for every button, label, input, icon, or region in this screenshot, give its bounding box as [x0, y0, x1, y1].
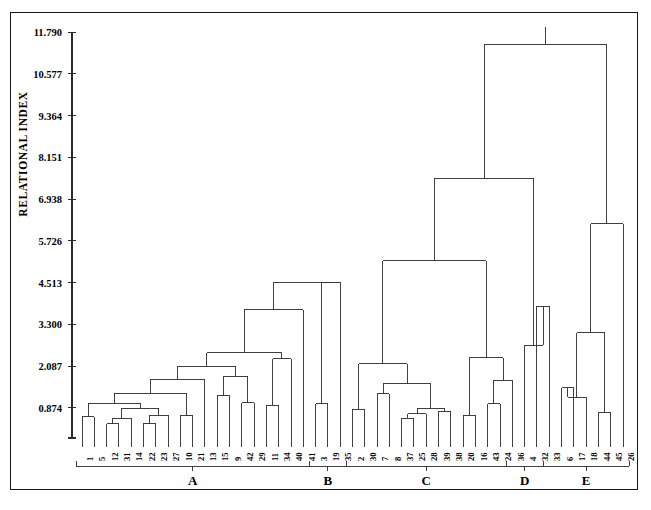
- y-axis-tick-label: 11.790: [0, 27, 62, 38]
- dendrogram-figure: RELATIONAL INDEX 11.79010.5779.3648.1516…: [0, 0, 651, 510]
- leaf-label: 40: [294, 452, 304, 461]
- leaf-label: 10: [184, 452, 194, 461]
- y-axis-tick-label: 0.874: [0, 402, 62, 413]
- leaf-label: 36: [516, 452, 526, 461]
- cluster-letter-b: B: [324, 473, 333, 489]
- y-axis-tick-label: 2.087: [0, 361, 62, 372]
- leaf-label: 6: [565, 457, 575, 461]
- leaf-label: 44: [602, 452, 612, 461]
- leaf-label: 43: [491, 452, 501, 461]
- leaf-label: 33: [552, 452, 562, 461]
- leaf-label: 26: [626, 452, 636, 461]
- leaf-label: 30: [368, 452, 378, 461]
- leaf-label: 31: [122, 452, 132, 461]
- leaf-label: 21: [196, 452, 206, 461]
- y-axis-tick-label: 10.577: [0, 68, 62, 79]
- cluster-letter-e: E: [582, 473, 591, 489]
- leaf-label: 4: [528, 457, 538, 461]
- leaf-label: 35: [343, 452, 353, 461]
- leaf-label: 45: [614, 452, 624, 461]
- leaf-label: 32: [540, 452, 550, 461]
- leaf-label: 27: [171, 452, 181, 461]
- leaf-label: 29: [257, 452, 267, 461]
- plot-area: 11.79010.5779.3648.1516.9385.7264.5133.3…: [0, 0, 651, 510]
- leaf-label: 28: [429, 452, 439, 461]
- y-axis-tick-label: 4.513: [0, 277, 62, 288]
- leaf-label: 3: [319, 457, 329, 461]
- leaf-label: 1: [85, 457, 95, 461]
- cluster-letter-a: A: [188, 473, 197, 489]
- leaf-label: 24: [503, 452, 513, 461]
- y-axis-tick-label: 8.151: [0, 152, 62, 163]
- leaf-label: 39: [442, 452, 452, 461]
- leaf-label: 9: [233, 457, 243, 461]
- y-axis-tick-label: 5.726: [0, 235, 62, 246]
- leaf-label: 16: [479, 452, 489, 461]
- dendrogram-tree: [0, 0, 651, 510]
- leaf-label: 23: [159, 452, 169, 461]
- leaf-label: 8: [393, 457, 403, 461]
- leaf-label: 34: [282, 452, 292, 461]
- leaf-label: 19: [331, 452, 341, 461]
- leaf-label: 13: [208, 452, 218, 461]
- leaf-label: 41: [307, 452, 317, 461]
- cluster-letter-c: C: [422, 473, 431, 489]
- leaf-label: 14: [134, 452, 144, 461]
- y-axis-tick-label: 6.938: [0, 194, 62, 205]
- cluster-letter-d: D: [520, 473, 529, 489]
- leaf-label: 2: [356, 457, 366, 461]
- y-axis-tick-label: 9.364: [0, 110, 62, 121]
- leaf-label: 15: [220, 452, 230, 461]
- leaf-label: 18: [589, 452, 599, 461]
- leaf-label: 20: [466, 452, 476, 461]
- leaf-label: 22: [147, 452, 157, 461]
- leaf-label: 17: [577, 452, 587, 461]
- leaf-label: 5: [97, 457, 107, 461]
- y-axis-tick-label: 3.300: [0, 319, 62, 330]
- leaf-label: 12: [110, 452, 120, 461]
- leaf-label: 37: [405, 452, 415, 461]
- leaf-label: 42: [245, 452, 255, 461]
- leaf-label: 11: [270, 453, 280, 461]
- leaf-label: 7: [380, 457, 390, 461]
- leaf-label: 25: [417, 452, 427, 461]
- leaf-label: 38: [454, 452, 464, 461]
